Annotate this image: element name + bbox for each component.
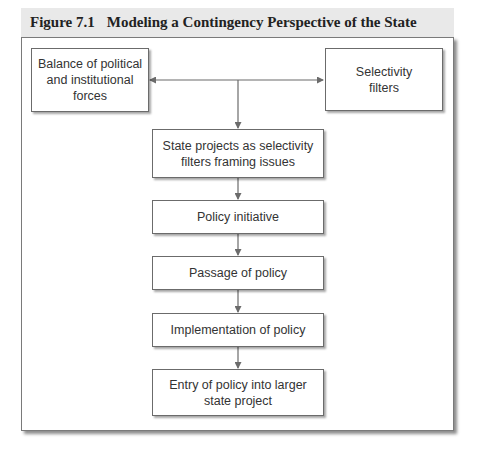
node-policy-initiative: Policy initiative — [152, 200, 324, 234]
node-label-line: Entry of policy into larger — [169, 377, 307, 393]
node-label-line: filters framing issues — [163, 154, 314, 170]
node-label-line: Implementation of policy — [171, 322, 306, 338]
node-selectivity-filters: Selectivity filters — [325, 48, 443, 111]
node-label-line: Selectivity — [356, 64, 412, 80]
node-state-projects: State projects as selectivity filters fr… — [152, 129, 324, 178]
node-label-line: Balance of political — [38, 56, 142, 72]
node-label-line: filters — [356, 80, 412, 96]
node-label-line: and institutional — [38, 72, 142, 88]
node-entry-into-state-project: Entry of policy into larger state projec… — [152, 369, 324, 416]
node-label-line: State projects as selectivity — [163, 138, 314, 154]
node-balance-of-forces: Balance of political and institutional f… — [31, 48, 149, 112]
figure-number: Figure 7.1 — [30, 14, 95, 30]
figure-caption-band: Figure 7.1Modeling a Contingency Perspec… — [21, 8, 454, 37]
figure-title: Modeling a Contingency Perspective of th… — [107, 14, 417, 30]
node-label-line: forces — [38, 88, 142, 104]
node-implementation-of-policy: Implementation of policy — [152, 313, 324, 347]
node-label-line: Passage of policy — [189, 265, 287, 281]
node-label-line: state project — [169, 393, 307, 409]
figure-caption: Figure 7.1Modeling a Contingency Perspec… — [30, 14, 417, 31]
node-label-line: Policy initiative — [197, 209, 279, 225]
node-passage-of-policy: Passage of policy — [152, 256, 324, 290]
